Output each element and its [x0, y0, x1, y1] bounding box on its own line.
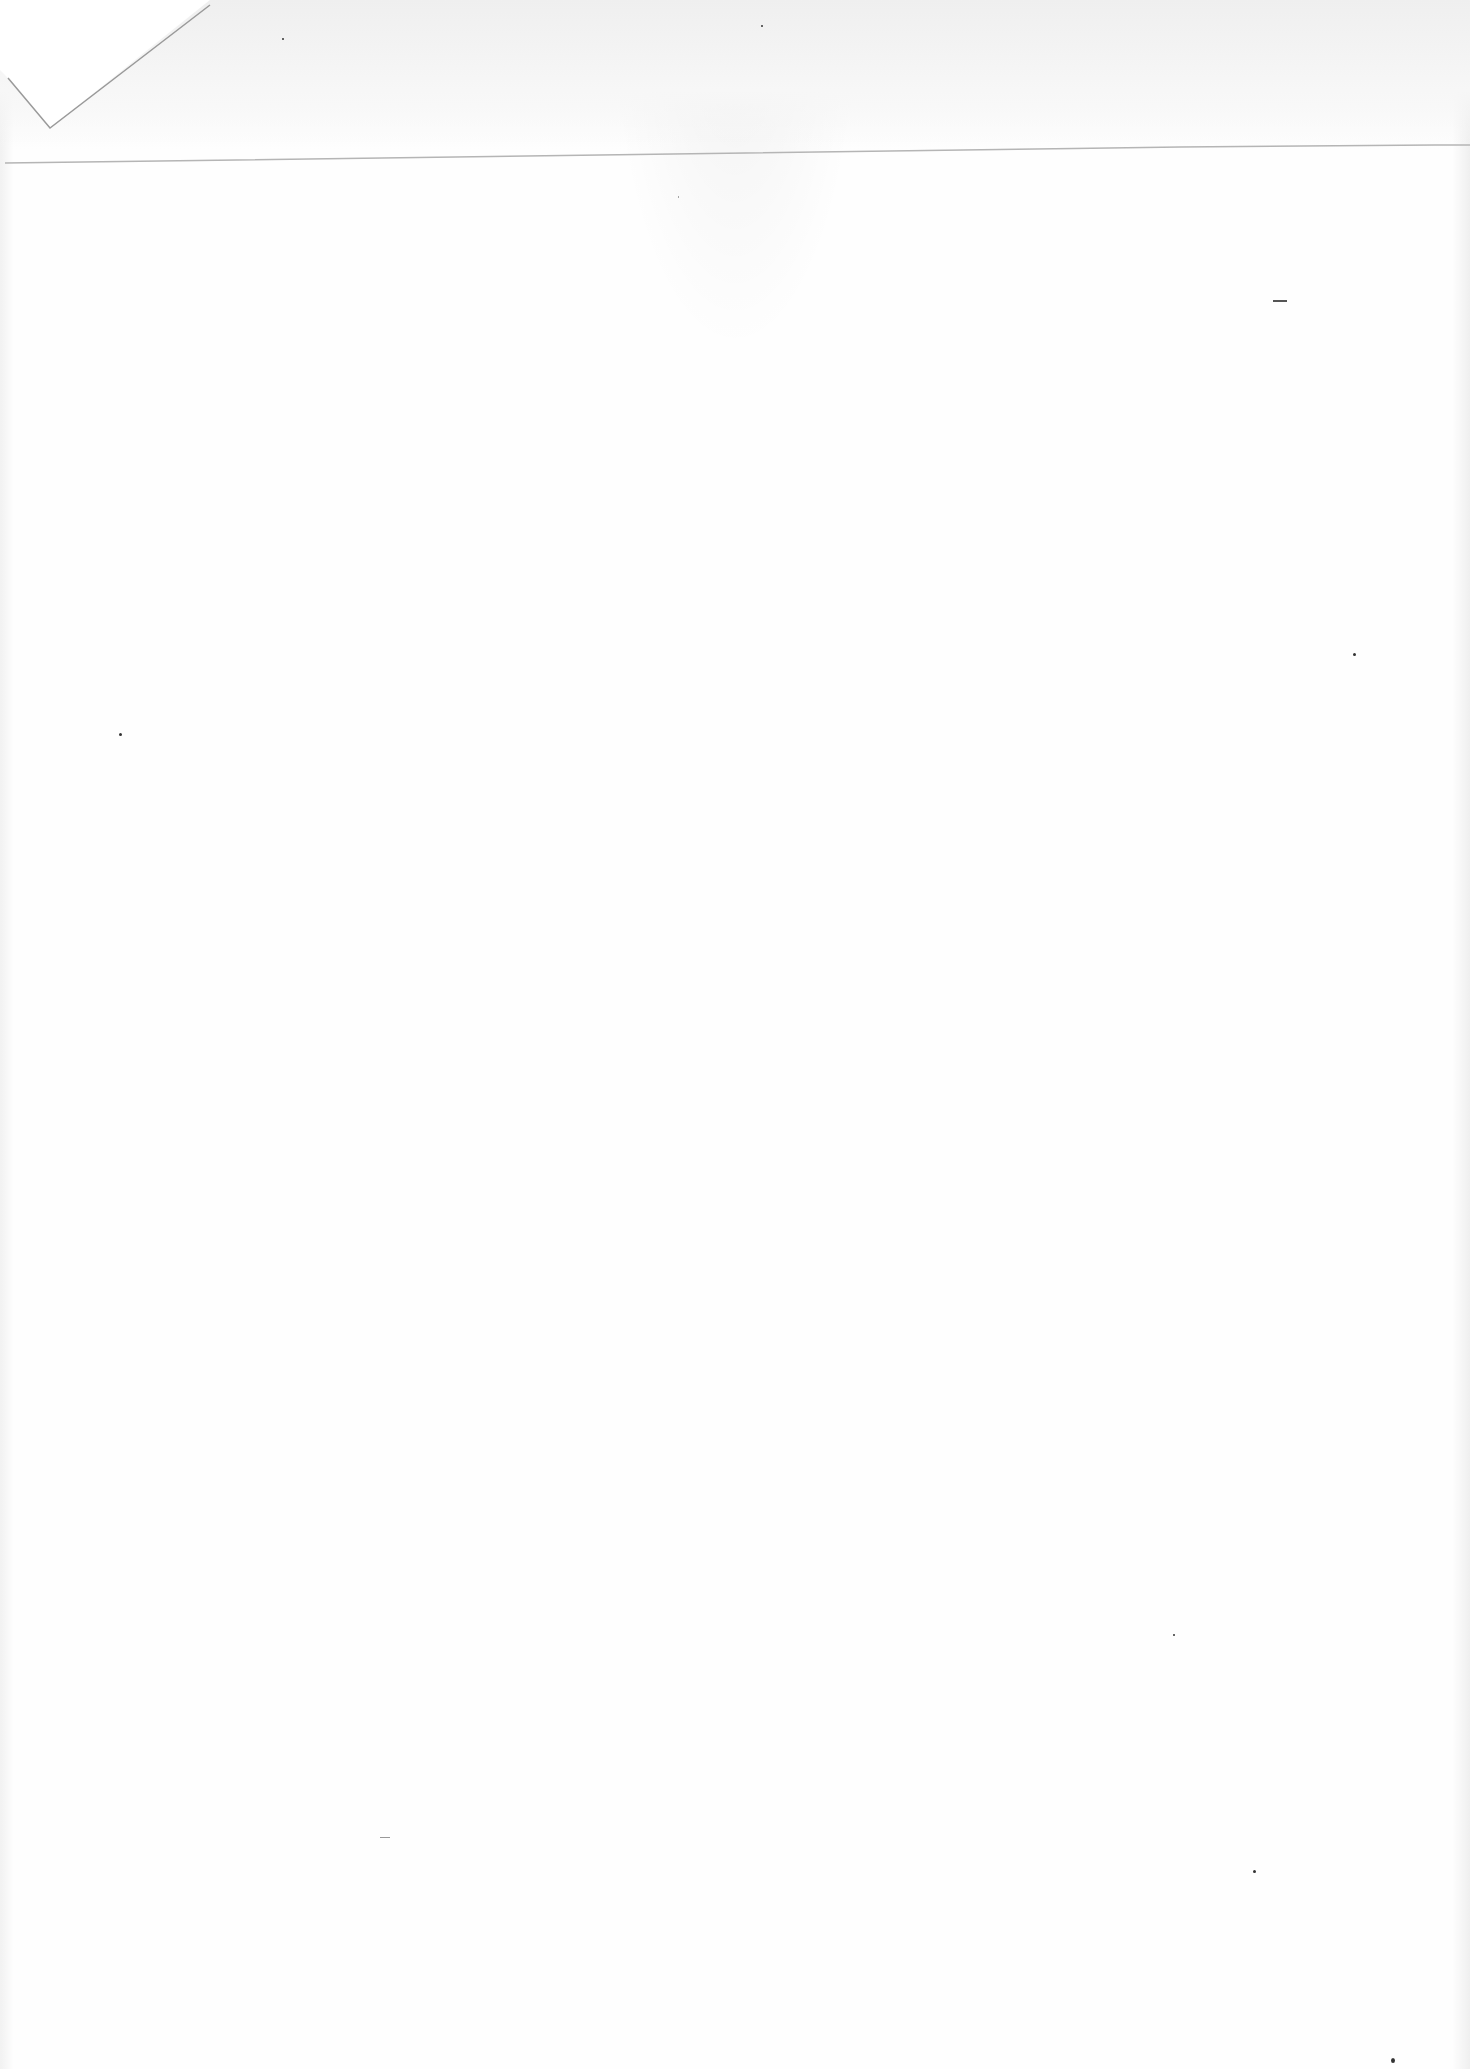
scanned-page: [0, 0, 1470, 2069]
scan-mark: [1273, 300, 1287, 302]
folded-corner: [0, 0, 220, 140]
scan-speck: [1353, 653, 1356, 656]
crease-line: [0, 135, 1470, 165]
scan-speck: [119, 733, 122, 736]
scan-speck: [1253, 1870, 1256, 1873]
scan-speck: [1173, 1634, 1175, 1636]
scan-speck: [761, 25, 763, 27]
scan-speck: [282, 38, 284, 40]
scan-speck: [1391, 2058, 1395, 2063]
scan-mark: [380, 1837, 390, 1838]
scan-shadow-band: [0, 0, 1470, 150]
scan-speck: [678, 196, 679, 198]
